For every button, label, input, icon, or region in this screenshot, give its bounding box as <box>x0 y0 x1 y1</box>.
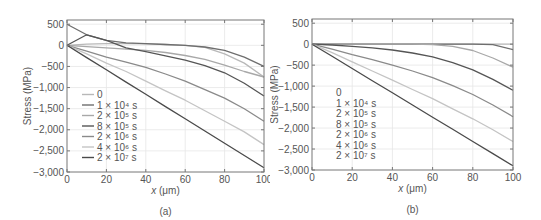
y-tick-label: 500 <box>292 18 309 29</box>
y-tick-label: −1,000 <box>278 81 309 92</box>
panel-caption: (a) <box>159 206 171 217</box>
x-tick-label: 60 <box>180 174 192 185</box>
legend-entry: 4 × 10⁶ s <box>97 142 137 153</box>
x-tick-label: 40 <box>387 172 399 183</box>
y-tick-label: −3,000 <box>33 167 64 178</box>
panel-a: 5000−500−1,000−1,500−2,000−2,500−3,00002… <box>0 0 270 220</box>
legend: 01 × 10⁴ s2 × 10⁵ s8 × 10⁵ s2 × 10⁶ s4 ×… <box>82 89 137 163</box>
x-tick-label: 100 <box>256 174 270 185</box>
y-tick-label: −1,000 <box>33 82 64 93</box>
chart-a-svg: 5000−500−1,000−1,500−2,000−2,500−3,00002… <box>0 0 270 220</box>
legend-entry: 2 × 10⁷ s <box>97 152 136 163</box>
x-tick-label: 0 <box>309 172 315 183</box>
legend-entry: 2 × 10⁵ s <box>97 110 137 121</box>
legend-entry: 2 × 10⁶ s <box>336 129 376 140</box>
y-tick-label: −500 <box>286 60 309 71</box>
x-tick-label: 20 <box>101 174 113 185</box>
y-tick-label: −1,500 <box>278 102 309 113</box>
legend-entry: 1 × 10⁴ s <box>336 98 376 109</box>
y-axis-label: Stress (MPa) <box>22 67 33 125</box>
legend-entry: 8 × 10⁵ s <box>336 119 376 130</box>
x-tick-label: 20 <box>347 172 359 183</box>
series-line-2 <box>67 45 264 77</box>
legend-entry: 0 <box>97 89 103 100</box>
y-tick-label: −2,500 <box>33 145 64 156</box>
x-tick-label: 80 <box>467 172 479 183</box>
legend-entry: 4 × 10⁶ s <box>336 140 376 151</box>
x-axis-label: x (μm) <box>150 185 180 196</box>
legend-entry: 2 × 10⁶ s <box>97 131 137 142</box>
y-tick-label: −2,500 <box>278 144 309 155</box>
y-tick-label: −3,000 <box>278 165 309 176</box>
y-tick-label: −500 <box>41 61 64 72</box>
x-tick-label: 60 <box>427 172 439 183</box>
legend-entry: 2 × 10⁵ s <box>336 108 376 119</box>
y-tick-label: −2,000 <box>278 123 309 134</box>
panel-caption: (b) <box>406 204 418 215</box>
chart-b-svg: 5000−500−1,000−1,500−2,000−2,500−3,00002… <box>270 0 541 220</box>
series-line-2 <box>312 44 513 67</box>
x-tick-label: 100 <box>505 172 522 183</box>
y-tick-label: 0 <box>303 39 309 50</box>
legend: 01 × 10⁴ s2 × 10⁵ s8 × 10⁵ s2 × 10⁶ s4 ×… <box>336 87 376 161</box>
series-line-3 <box>312 44 513 90</box>
series-line-0 <box>67 44 264 77</box>
y-axis-label: Stress (MPa) <box>270 65 280 123</box>
legend-entry: 0 <box>336 87 342 98</box>
y-tick-label: 0 <box>58 40 64 51</box>
legend-entry: 1 × 10⁴ s <box>97 100 137 111</box>
x-tick-label: 80 <box>219 174 231 185</box>
y-tick-label: −1,500 <box>33 103 64 114</box>
x-axis-label: x (μm) <box>397 183 427 194</box>
x-tick-label: 40 <box>140 174 152 185</box>
y-tick-label: 500 <box>47 19 64 30</box>
x-tick-label: 0 <box>64 174 70 185</box>
legend-entry: 8 × 10⁵ s <box>97 121 137 132</box>
legend-entry: 2 × 10⁷ s <box>336 150 375 161</box>
y-tick-label: −2,000 <box>33 124 64 135</box>
panel-b: 5000−500−1,000−1,500−2,000−2,500−3,00002… <box>270 0 540 220</box>
